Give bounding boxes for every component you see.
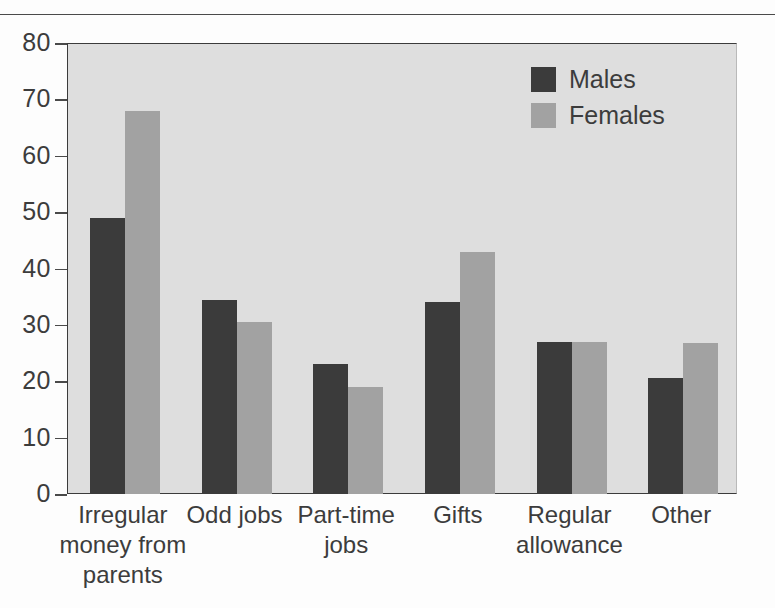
x-axis-label-line: money from	[55, 530, 191, 560]
bar-males-3	[425, 302, 460, 494]
top-divider-rule	[0, 14, 775, 15]
y-axis-tick-mark	[55, 269, 67, 271]
y-axis-tick-mark	[55, 156, 67, 158]
y-axis-tick-mark	[55, 325, 67, 327]
x-axis-label-line: allowance	[502, 530, 638, 560]
bar-group	[90, 43, 160, 494]
y-axis-tick-mark	[55, 494, 67, 496]
x-axis-label-line: Other	[613, 500, 749, 530]
y-axis-tick-label: 80	[22, 28, 51, 57]
bar-males-2	[313, 364, 348, 494]
y-axis-tick-label: 0	[37, 479, 51, 508]
bar-group	[313, 43, 383, 494]
legend-item-males[interactable]: Males	[531, 66, 721, 92]
y-axis-tick-mark	[55, 438, 67, 440]
x-axis-label-line: jobs	[278, 530, 414, 560]
bar-females-4	[572, 342, 607, 494]
y-axis-tick-mark	[55, 212, 67, 214]
legend-label: Females	[569, 101, 665, 130]
y-axis-tick-label: 10	[22, 423, 51, 452]
x-axis-label: Other	[613, 500, 749, 530]
bar-group	[425, 43, 495, 494]
chart-legend: MalesFemales	[531, 66, 721, 138]
bar-males-0	[90, 218, 125, 494]
y-axis-tick-label: 70	[22, 84, 51, 113]
bar-females-0	[125, 111, 160, 494]
bar-males-5	[648, 378, 683, 494]
legend-label: Males	[569, 65, 636, 94]
bar-females-2	[348, 387, 383, 494]
bar-group	[202, 43, 272, 494]
legend-swatch-icon	[531, 67, 556, 92]
y-axis-tick-label: 20	[22, 366, 51, 395]
bar-males-1	[202, 300, 237, 494]
legend-item-females[interactable]: Females	[531, 102, 721, 128]
y-axis-tick-mark	[55, 43, 67, 45]
y-axis-tick-label: 40	[22, 254, 51, 283]
y-axis-tick-label: 30	[22, 310, 51, 339]
bar-chart-figure: 01020304050607080 Irregularmoney frompar…	[0, 0, 775, 608]
y-axis-tick-label: 60	[22, 141, 51, 170]
bar-males-4	[537, 342, 572, 494]
bar-females-5	[683, 343, 718, 494]
y-axis-tick-mark	[55, 99, 67, 101]
bar-females-1	[237, 322, 272, 494]
y-axis-tick-label: 50	[22, 197, 51, 226]
x-axis-labels: Irregularmoney fromparentsOdd jobsPart-t…	[67, 500, 737, 600]
legend-swatch-icon	[531, 103, 556, 128]
y-axis-tick-mark	[55, 381, 67, 383]
x-axis-label-line: parents	[55, 560, 191, 590]
bar-females-3	[460, 252, 495, 494]
